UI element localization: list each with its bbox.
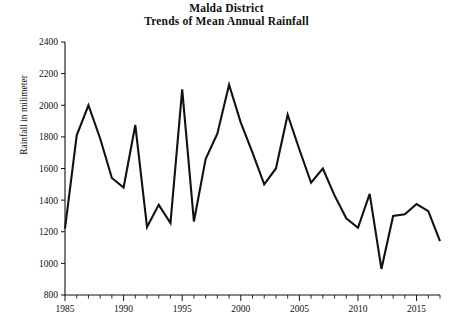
y-tick-label: 1000 <box>39 259 58 269</box>
plot-area: 80010001200140016001800200022002400 1985… <box>0 0 453 330</box>
y-tick-label: 1600 <box>39 164 58 174</box>
x-tick-label: 2005 <box>290 304 309 314</box>
x-axis-ticks: 1985199019952000200520102015 <box>56 295 441 314</box>
y-tick-label: 1800 <box>39 132 58 142</box>
y-tick-label: 1400 <box>39 196 58 206</box>
rainfall-series-line <box>65 85 440 269</box>
rainfall-chart: Malda District Trends of Mean Annual Rai… <box>0 0 453 330</box>
y-tick-label: 2400 <box>39 37 58 47</box>
x-tick-label: 2015 <box>407 304 426 314</box>
x-tick-label: 1985 <box>56 304 75 314</box>
x-tick-label: 1995 <box>173 304 192 314</box>
y-tick-label: 1200 <box>39 227 58 237</box>
y-axis-ticks: 80010001200140016001800200022002400 <box>39 37 65 300</box>
x-tick-label: 2010 <box>348 304 367 314</box>
x-tick-label: 2000 <box>231 304 250 314</box>
y-tick-label: 2000 <box>39 101 58 111</box>
x-tick-label: 1990 <box>114 304 133 314</box>
y-tick-label: 800 <box>44 290 59 300</box>
y-tick-label: 2200 <box>39 69 58 79</box>
